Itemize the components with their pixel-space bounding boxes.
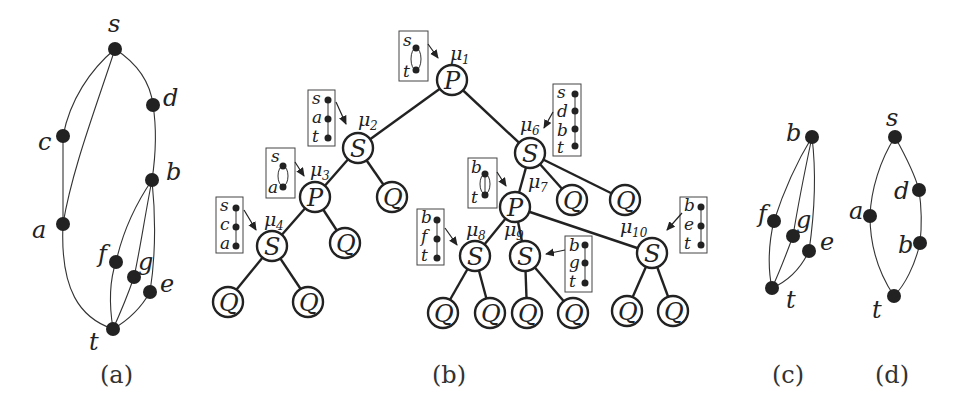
- svg-text:t: t: [786, 286, 796, 314]
- q-leaf: Q: [330, 228, 360, 258]
- vertex-f: [109, 255, 123, 269]
- svg-text:Q: Q: [616, 187, 636, 215]
- vertex-t: [106, 322, 120, 336]
- svg-text:s: s: [271, 146, 280, 166]
- vertex-c: [56, 129, 70, 143]
- svg-text:e: e: [684, 214, 694, 234]
- svg-text:Q: Q: [518, 300, 538, 328]
- label-s: s: [108, 10, 120, 38]
- label-c: c: [38, 128, 51, 156]
- svg-text:e: e: [820, 228, 834, 256]
- skeleton-box-mu1: s t: [399, 30, 438, 81]
- vertex-t: [765, 281, 779, 295]
- svg-text:g: g: [569, 252, 580, 272]
- tree-node-mu1: P μ 1: [437, 42, 470, 95]
- edge-f-t: [110, 262, 116, 329]
- caption-c: (c): [772, 361, 804, 389]
- q-leaf: Q: [213, 287, 243, 317]
- svg-text:μ: μ: [466, 218, 478, 240]
- svg-text:μ: μ: [520, 113, 532, 135]
- q-leaf: Q: [610, 185, 640, 215]
- svg-text:Q: Q: [219, 289, 239, 317]
- svg-text:3: 3: [322, 169, 330, 183]
- svg-text:Q: Q: [336, 230, 356, 258]
- label-d: d: [163, 84, 178, 112]
- svg-text:b: b: [684, 195, 695, 215]
- svg-text:μ: μ: [310, 158, 322, 180]
- panel-d: s a d b t (d): [849, 104, 927, 389]
- panel-c: b f g e t (c): [756, 119, 834, 389]
- svg-text:7: 7: [540, 181, 548, 195]
- vertex-a: [863, 209, 877, 223]
- svg-text:μ: μ: [358, 108, 370, 130]
- svg-text:S: S: [350, 135, 366, 163]
- svg-text:Q: Q: [664, 298, 684, 326]
- q-leaf: Q: [428, 298, 458, 328]
- vertex-b: [913, 236, 927, 250]
- svg-text:t: t: [471, 187, 478, 207]
- svg-text:b: b: [898, 231, 913, 259]
- label-b: b: [166, 158, 181, 186]
- svg-text:Q: Q: [563, 187, 583, 215]
- svg-text:Q: Q: [564, 300, 584, 328]
- svg-text:μ: μ: [264, 208, 276, 230]
- svg-text:a: a: [268, 177, 278, 197]
- svg-text:t: t: [403, 61, 410, 81]
- label-a: a: [32, 216, 46, 244]
- vertex-b: [805, 130, 819, 144]
- svg-text:t: t: [421, 245, 428, 265]
- svg-text:a: a: [220, 233, 230, 253]
- svg-text:s: s: [557, 82, 566, 102]
- vertex-e: [143, 285, 157, 299]
- svg-text:μ: μ: [450, 42, 462, 64]
- svg-text:a: a: [312, 107, 322, 127]
- q-leaf: Q: [557, 185, 587, 215]
- svg-text:6: 6: [532, 124, 540, 138]
- edge-e-t: [113, 292, 150, 329]
- label-e: e: [160, 270, 174, 298]
- svg-text:c: c: [220, 214, 230, 234]
- svg-text:Q: Q: [383, 184, 403, 212]
- svg-text:Q: Q: [618, 298, 638, 326]
- svg-text:μ: μ: [620, 215, 632, 237]
- svg-text:Q: Q: [481, 300, 501, 328]
- svg-text:s: s: [886, 104, 898, 132]
- svg-text:b: b: [471, 157, 482, 177]
- q-leaf: Q: [377, 182, 407, 212]
- svg-text:d: d: [894, 177, 909, 205]
- vertex-b: [145, 173, 159, 187]
- svg-text:S: S: [517, 243, 533, 271]
- tree-node-mu10: S μ 10: [620, 215, 667, 268]
- panel-a-edges: [63, 49, 156, 329]
- caption-a: (a): [100, 361, 133, 389]
- svg-text:b: b: [786, 119, 801, 147]
- label-f: f: [96, 240, 111, 268]
- svg-text:μ: μ: [504, 218, 516, 240]
- edge-s-d: [115, 49, 153, 105]
- q-leaf: Q: [512, 298, 542, 328]
- svg-text:10: 10: [632, 226, 648, 240]
- svg-text:t: t: [312, 126, 319, 146]
- edge-s-c: [63, 49, 115, 136]
- svg-text:P: P: [306, 184, 324, 212]
- svg-text:S: S: [644, 240, 660, 268]
- vertex-s: [108, 42, 122, 56]
- skeleton-box-mu4: s c a: [216, 195, 256, 253]
- tree-node-mu6: S μ 6: [515, 113, 545, 168]
- q-leaf: Q: [558, 298, 588, 328]
- svg-text:b: b: [421, 207, 432, 227]
- caption-b: (b): [432, 361, 466, 389]
- panel-a: s d c b a f g e t (a): [32, 10, 181, 389]
- svg-text:S: S: [467, 243, 483, 271]
- svg-text:s: s: [403, 30, 412, 50]
- tree-node-mu3: P μ 3: [300, 158, 330, 212]
- panel-b: P μ 1 S μ 2 P μ 3 S μ 4 S μ 6: [213, 30, 707, 389]
- vertex-d: [912, 183, 926, 197]
- tree-node-mu8: S μ 8: [460, 218, 490, 271]
- edge-g-t: [113, 277, 134, 329]
- caption-d: (d): [875, 361, 909, 389]
- vertex-a: [56, 217, 70, 231]
- svg-text:s: s: [220, 195, 229, 215]
- skeleton-box-mu2: s a t: [308, 88, 346, 146]
- svg-text:S: S: [264, 233, 280, 261]
